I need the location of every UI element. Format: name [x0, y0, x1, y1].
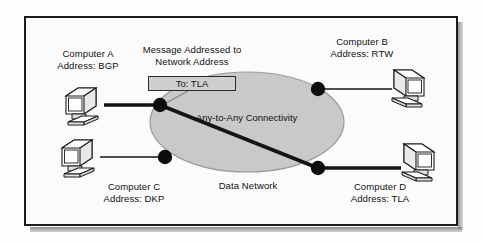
message-caption-line-1: Message Addressed to	[143, 44, 242, 55]
computer-b-name: Computer B	[336, 36, 388, 47]
computer-b-label: Computer B Address: RTW	[316, 36, 408, 60]
computer-d-label: Computer D Address: TLA	[334, 181, 426, 205]
message-address-text: To: TLA	[176, 78, 209, 89]
computer-d-name: Computer D	[354, 181, 406, 192]
computer-d-icon	[402, 144, 434, 181]
computer-c-address: Address: DKP	[88, 193, 180, 205]
data-network-label: Data Network	[204, 180, 292, 192]
node-top-right	[311, 82, 325, 96]
node-bottom-right	[311, 161, 325, 175]
computer-a-name: Computer A	[62, 48, 113, 59]
computer-a-address: Address: BGP	[42, 60, 134, 72]
computer-b-address: Address: RTW	[316, 48, 408, 60]
node-top-left	[153, 98, 167, 112]
computer-b-icon	[392, 70, 424, 107]
computer-c-label: Computer C Address: DKP	[88, 181, 180, 205]
node-bottom-left	[158, 150, 172, 164]
computer-d-address: Address: TLA	[334, 193, 426, 205]
computer-a-label: Computer A Address: BGP	[42, 48, 134, 72]
message-address-box: To: TLA	[148, 76, 236, 91]
message-caption-line-2: Network Address	[126, 56, 258, 68]
message-caption: Message Addressed to Network Address	[126, 44, 258, 68]
computer-a-icon	[66, 88, 98, 125]
computer-c-name: Computer C	[108, 181, 160, 192]
computer-c-icon	[62, 140, 94, 177]
cloud-connectivity-label: Any-to-Any Connectivity	[196, 112, 297, 123]
